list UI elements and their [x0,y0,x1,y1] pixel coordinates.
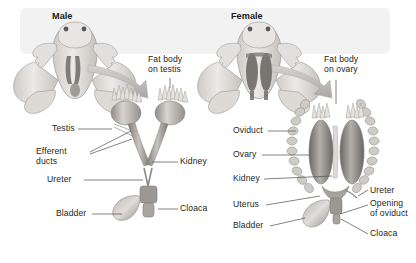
male-urogenital-organs-illustration [111,84,188,220]
label-kidney-male: Kidney [180,157,207,167]
label-ureter: Ureter [47,175,71,185]
label-ovary: Ovary [233,150,256,160]
female-urogenital-organs-illustration [287,98,379,227]
female-frog-body-illustration [198,22,321,113]
label-cloaca-female: Cloaca [370,229,397,239]
label-bladder: Bladder [56,209,86,219]
label-oviduct: Oviduct [233,126,263,136]
leader-bladder-female [270,218,305,226]
leader-uterus [266,196,320,205]
panel-heading-male: Male [52,11,72,21]
label-testis: Testis [52,124,75,134]
label-kidney-female: Kidney [233,174,260,184]
label-bladder-female: Bladder [233,221,263,231]
label-fat-body-on-ovary: Fat body on ovary [324,55,358,74]
label-efferent-ducts: Efferent ducts [36,147,67,166]
panel-heading-female: Female [231,11,263,21]
leader-opening-of-oviduct [340,205,368,214]
male-frog-body-illustration [14,22,137,113]
label-fat-body-on-testis: Fat body on testis [148,55,182,74]
label-ureter-female: Ureter [370,186,394,196]
label-cloaca-male: Cloaca [180,204,207,214]
label-opening-of-oviduct: Opening of oviduct [370,199,408,218]
label-uterus: Uterus [233,200,259,210]
leader-cloaca-female [341,219,368,234]
frog-urogenital-figure: Male Female Fat body on testis Testis Ef… [0,0,416,263]
